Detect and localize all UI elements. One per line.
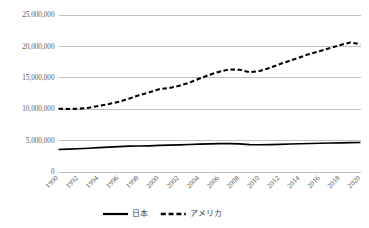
x-axis-tick-label: 1994: [84, 174, 100, 190]
line-chart: 05,000,00010,000,00015,000,00020,000,000…: [0, 0, 369, 228]
chart-legend: 日本アメリカ: [103, 208, 222, 218]
x-axis-tick-label: 1990: [44, 174, 60, 190]
x-axis-tick-label: 2004: [185, 174, 201, 190]
y-axis-tick-label: 5,000,000: [26, 137, 55, 145]
x-axis-tick-label: 2000: [145, 174, 161, 190]
legend-label: アメリカ: [190, 209, 222, 218]
series-line-solid: [59, 142, 361, 149]
x-axis-tick-label: 1992: [64, 174, 80, 190]
x-axis-tick-label: 2012: [266, 174, 282, 190]
x-axis-tick-labels: 1990199219941996199820002002200420062008…: [44, 174, 362, 190]
series-line-dashed: [59, 42, 361, 109]
y-axis-tick-label: 25,000,000: [22, 11, 55, 19]
chart-canvas: 05,000,00010,000,00015,000,00020,000,000…: [0, 0, 369, 228]
x-axis-tick-label: 1998: [125, 174, 141, 190]
y-axis-tick-label: 10,000,000: [22, 105, 55, 113]
gridlines: [59, 16, 361, 173]
x-axis-tick-label: 2020: [346, 174, 362, 190]
x-axis-tick-label: 1996: [104, 174, 120, 190]
x-axis-tick-label: 2002: [165, 174, 181, 190]
x-axis-tick-label: 2008: [225, 174, 241, 190]
x-axis-tick-label: 2014: [286, 174, 302, 190]
x-axis-tick-label: 2016: [306, 174, 322, 190]
x-axis-tick-label: 2010: [245, 174, 261, 190]
y-axis-tick-labels: 05,000,00010,000,00015,000,00020,000,000…: [22, 11, 55, 176]
legend-label: 日本: [132, 208, 148, 218]
data-series: [59, 42, 361, 149]
y-axis-tick-label: 20,000,000: [22, 43, 55, 51]
x-axis-tick-label: 2018: [326, 174, 342, 190]
y-axis-tick-label: 15,000,000: [22, 74, 55, 82]
x-axis-tick-label: 2006: [205, 174, 221, 190]
